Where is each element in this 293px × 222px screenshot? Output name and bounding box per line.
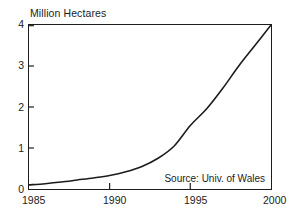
x-tick-label-1995: 1995 [184, 194, 207, 206]
series-line-area [29, 25, 271, 185]
x-tick-label-2000: 2000 [263, 194, 286, 206]
plot-svg [29, 25, 271, 189]
y-tick-label-0: 0 [2, 183, 24, 195]
y-tick-label-1: 1 [2, 142, 24, 154]
y-tick-label-2: 2 [2, 101, 24, 113]
y-axis-title: Million Hectares [30, 7, 106, 19]
tick-marks [29, 26, 190, 189]
y-tick-label-3: 3 [2, 59, 24, 71]
plot-area: Source: Univ. of Wales [28, 24, 272, 190]
source-annotation: Source: Univ. of Wales [164, 173, 265, 184]
y-tick-label-4: 4 [2, 18, 24, 30]
x-tick-label-1985: 1985 [22, 194, 45, 206]
x-tick-label-1990: 1990 [103, 194, 126, 206]
chart-figure: Million Hectares 4 3 2 1 0 1985 1990 199… [0, 0, 293, 222]
